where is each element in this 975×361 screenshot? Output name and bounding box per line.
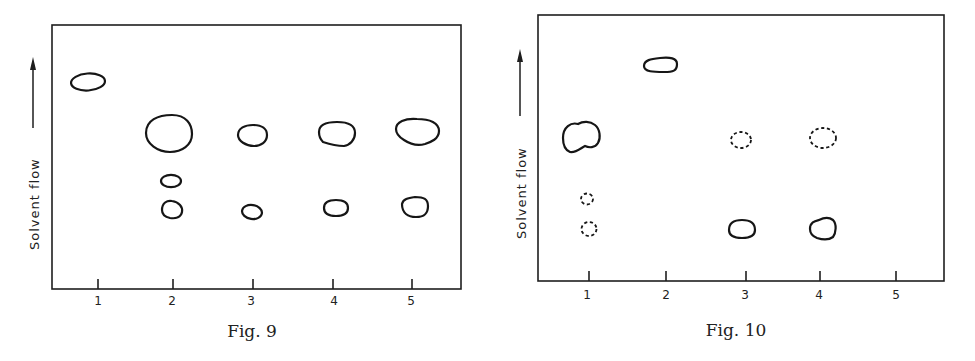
spot-faint — [581, 194, 593, 205]
lane-label: 3 — [741, 288, 749, 302]
spot — [402, 197, 428, 217]
spot — [396, 119, 439, 145]
lane-label: 2 — [662, 288, 670, 302]
spot — [644, 58, 677, 72]
lane-label: 5 — [407, 294, 415, 308]
solvent-flow-arrow-icon — [517, 49, 523, 116]
spot — [810, 218, 836, 239]
figure-caption: Fig. 10 — [706, 320, 767, 340]
figure-10: Solvent flow 1 2 3 4 5 F — [514, 15, 944, 340]
spot — [729, 220, 755, 238]
spot — [161, 175, 181, 187]
lane-label: 2 — [168, 294, 176, 308]
lane-label: 3 — [247, 294, 255, 308]
axis-label: Solvent flow — [514, 147, 529, 239]
lane-label: 1 — [583, 288, 591, 302]
lane-ticks — [98, 279, 412, 289]
lane-label: 1 — [94, 294, 102, 308]
spot — [162, 201, 182, 218]
spot — [238, 125, 267, 146]
chromatogram-spots — [70, 72, 439, 220]
figure-9: Solvent flow 1 2 3 4 5 Fig. 9 — [27, 25, 461, 341]
spot-faint — [582, 222, 597, 236]
spot — [70, 72, 105, 91]
spot — [319, 122, 355, 146]
axis-label: Solvent flow — [27, 158, 42, 250]
spot-faint — [731, 132, 751, 148]
lane-label: 4 — [330, 294, 338, 308]
solvent-flow-arrow-icon — [30, 57, 36, 128]
plate-frame — [52, 25, 461, 289]
spot — [324, 200, 348, 216]
lane-label: 4 — [815, 288, 823, 302]
figure-caption: Fig. 9 — [227, 321, 277, 341]
lane-ticks — [589, 271, 896, 281]
chromatogram-spots — [563, 58, 836, 240]
spot — [563, 122, 600, 152]
lane-label: 5 — [892, 288, 900, 302]
spot — [146, 115, 192, 152]
spot-faint — [810, 128, 836, 148]
spot — [241, 204, 263, 221]
